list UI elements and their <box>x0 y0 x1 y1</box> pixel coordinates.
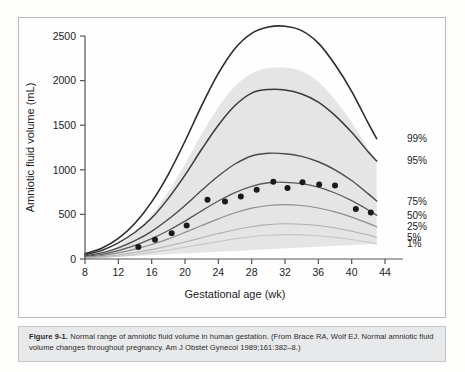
data-point <box>238 194 244 200</box>
data-point <box>152 237 158 243</box>
y-tick-label: 0 <box>70 253 76 265</box>
y-tick-label: 1500 <box>53 119 77 131</box>
data-point <box>368 210 374 216</box>
x-tick-label: 24 <box>212 266 224 278</box>
x-tick-label: 28 <box>246 266 258 278</box>
data-point <box>205 197 211 203</box>
series-label-50pct: 50% <box>407 210 427 221</box>
data-point <box>316 182 322 188</box>
y-tick-label: 1000 <box>53 164 77 176</box>
data-point <box>270 179 276 185</box>
data-point <box>184 223 190 229</box>
x-tick-label: 36 <box>312 266 324 278</box>
figure-caption-box: Figure 9-1. Normal range of amniotic flu… <box>18 326 446 362</box>
data-point <box>169 230 175 236</box>
data-point <box>353 206 359 212</box>
amniotic-fluid-volume-chart: 050010001500200025008121620242832364044G… <box>19 18 445 317</box>
y-axis-title: Amniotic fluid volume (mL) <box>24 83 36 213</box>
x-tick-label: 12 <box>112 266 124 278</box>
data-point <box>285 185 291 191</box>
figure-root: 050010001500200025008121620242832364044G… <box>0 0 465 372</box>
figure-caption-label: Figure 9-1. <box>29 332 68 341</box>
series-label-25pct: 25% <box>407 221 427 232</box>
x-tick-label: 44 <box>379 266 391 278</box>
y-tick-label: 2000 <box>53 74 77 86</box>
data-point <box>332 182 338 188</box>
x-tick-label: 16 <box>146 266 158 278</box>
data-point <box>300 179 306 185</box>
series-label-75pct: 75% <box>407 196 427 207</box>
data-point <box>254 187 260 193</box>
y-tick-label: 500 <box>58 208 76 220</box>
plot-frame: 050010001500200025008121620242832364044G… <box>18 17 446 318</box>
x-axis-title: Gestational age (wk) <box>185 288 286 300</box>
series-label-1pct: 1% <box>407 238 422 249</box>
x-tick-label: 32 <box>279 266 291 278</box>
figure-caption-body: Normal range of amniotic fluid volume in… <box>29 332 434 352</box>
y-tick-label: 2500 <box>53 30 77 42</box>
x-tick-label: 40 <box>346 266 358 278</box>
x-tick-label: 20 <box>179 266 191 278</box>
figure-caption: Figure 9-1. Normal range of amniotic flu… <box>29 332 437 353</box>
data-point <box>135 244 141 250</box>
x-tick-label: 8 <box>82 266 88 278</box>
series-label-99pct: 99% <box>407 133 427 144</box>
data-point <box>222 198 228 204</box>
series-label-95pct: 95% <box>407 155 427 166</box>
